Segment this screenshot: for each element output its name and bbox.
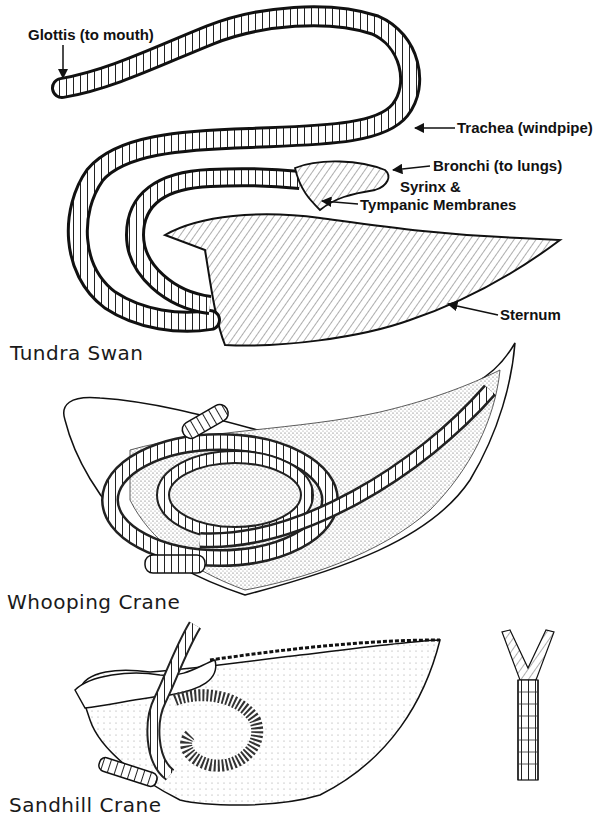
label-trachea: Trachea (windpipe) bbox=[457, 120, 593, 135]
whooping-crane-illustration bbox=[64, 343, 515, 595]
whooping-trachea-end bbox=[145, 555, 205, 573]
label-syrinx-line2: Tympanic Membranes bbox=[360, 197, 516, 212]
label-bronchi: Bronchi (to lungs) bbox=[433, 158, 562, 173]
bronchi-arrow bbox=[393, 166, 430, 170]
label-syrinx-line1: Syrinx & bbox=[400, 179, 461, 194]
label-sternum: Sternum bbox=[500, 307, 561, 322]
sandhill-crane-illustration bbox=[75, 625, 554, 805]
species-title-sandhill-crane: Sandhill Crane bbox=[9, 795, 161, 815]
sternum-arrow bbox=[448, 304, 498, 315]
label-glottis: Glottis (to mouth) bbox=[28, 27, 154, 42]
species-title-whooping-crane: Whooping Crane bbox=[7, 592, 180, 612]
sandhill-syrinx-detail bbox=[502, 630, 554, 780]
tundra-swan-illustration bbox=[62, 16, 560, 345]
swan-sternum bbox=[165, 214, 560, 345]
species-title-tundra-swan: Tundra Swan bbox=[10, 343, 144, 363]
